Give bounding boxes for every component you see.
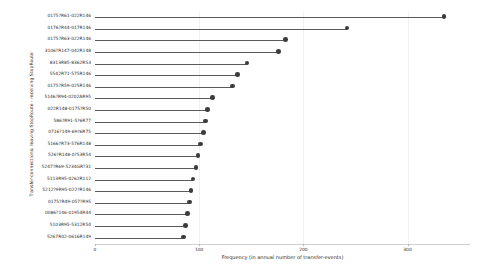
y-axis-tick-label: 5113R95-0262R112	[47, 176, 91, 181]
lollipop-stem	[95, 238, 184, 239]
y-axis-tick-label: 0175?R49-057?R95	[48, 199, 91, 204]
x-axis-title: Frequency (in annual number of transfer-…	[95, 254, 470, 260]
lollipop-row	[95, 140, 470, 152]
lollipop-row	[95, 128, 470, 140]
lollipop-stem	[95, 133, 203, 134]
lollipop-row	[95, 209, 470, 221]
lollipop-row	[95, 35, 470, 47]
lollipop-row	[95, 151, 470, 163]
y-axis-tick-labels: 0175?R61-022R1460176?R44-017R1460175?R63…	[0, 12, 91, 244]
lollipop-row	[95, 198, 470, 210]
y-axis-tick-label: 5146?R94-0202AR95	[44, 94, 91, 99]
x-axis-line	[95, 244, 470, 245]
y-axis-tick-label: 8313R85-8362R53	[50, 60, 91, 65]
y-axis-tick-label: 0175?R61-022R146	[47, 13, 91, 18]
lollipop-stem	[95, 29, 347, 30]
lollipop-marker	[203, 119, 208, 124]
x-axis-tick-label: 300	[403, 247, 411, 252]
lollipop-marker	[210, 95, 215, 100]
lollipop-row	[95, 221, 470, 233]
lollipop-row	[95, 82, 470, 94]
y-axis-tick-label: 0175?R59-025R146	[47, 83, 91, 88]
lollipop-marker	[189, 188, 194, 193]
x-axis-tick-label: 200	[299, 247, 307, 252]
lollipop-row	[95, 163, 470, 175]
lollipop-stem	[95, 214, 188, 215]
y-axis-tick-label: 0176?R44-017R146	[47, 25, 91, 30]
lollipop-stem	[95, 191, 191, 192]
lollipop-stem	[95, 156, 198, 157]
x-axis-tick-mark	[303, 244, 304, 246]
lollipop-marker	[194, 165, 199, 170]
lollipop-marker	[345, 26, 350, 31]
lollipop-stem	[95, 203, 190, 204]
lollipop-marker	[191, 177, 196, 182]
lollipop-marker	[442, 14, 447, 19]
y-axis-tick-label: 586?R91-5?6R77	[54, 118, 92, 123]
lollipop-marker	[185, 211, 190, 216]
lollipop-stem	[95, 145, 200, 146]
lollipop-stem	[95, 122, 205, 123]
lollipop-row	[95, 232, 470, 244]
x-axis-tick-mark	[408, 244, 409, 246]
x-axis-tick-mark	[95, 244, 96, 246]
x-axis-tick-mark	[199, 244, 200, 246]
lollipop-stem	[95, 87, 233, 88]
y-axis-tick-label: 5166?R73-576R148	[47, 141, 91, 146]
lollipop-stem	[95, 64, 247, 65]
lollipop-row	[95, 58, 470, 70]
lollipop-marker	[201, 130, 206, 135]
lollipop-stem	[95, 168, 196, 169]
lollipop-marker	[235, 72, 240, 77]
y-axis-tick-label: 0086?146-01954R44	[45, 210, 91, 215]
y-axis-tick-label: 5267R02-0616R149	[47, 234, 91, 239]
lollipop-stem	[95, 180, 193, 181]
lollipop-stem	[95, 17, 444, 18]
lollipop-row	[95, 105, 470, 117]
lollipop-marker	[198, 142, 203, 147]
y-axis-tick-label: 022R148-0175?R50	[47, 106, 91, 111]
lollipop-marker	[283, 37, 288, 42]
lollipop-marker	[187, 200, 192, 205]
lollipop-stem	[95, 75, 238, 76]
lollipop-chart-figure: Transfer-connections: leaving StopRoute …	[0, 0, 479, 277]
y-axis-tick-label: 3106?R147-042R148	[45, 48, 91, 53]
lollipop-marker	[205, 107, 210, 112]
lollipop-row	[95, 93, 470, 105]
lollipop-marker	[230, 84, 235, 89]
lollipop-row	[95, 174, 470, 186]
y-axis-tick-label: 5103R95-5312R54	[50, 222, 91, 227]
y-axis-tick-label: 0175?R63-022R146	[47, 36, 91, 41]
lollipop-marker	[196, 153, 201, 158]
y-axis-tick-label: 5212?9R95-022?R146	[42, 187, 91, 192]
lollipop-row	[95, 12, 470, 24]
y-axis-tick-label: 526?R148-0?53R54	[48, 152, 91, 157]
y-axis-tick-label: 0716?149-69?6R75	[48, 129, 91, 134]
x-axis-tick-label: 0	[94, 247, 97, 252]
plot-area	[95, 12, 470, 244]
y-axis-tick-label: 5247?R69-5234GR?31	[42, 164, 91, 169]
lollipop-row	[95, 47, 470, 59]
lollipop-stem	[95, 40, 286, 41]
lollipop-row	[95, 24, 470, 36]
x-axis-tick-label: 100	[195, 247, 203, 252]
lollipop-row	[95, 70, 470, 82]
lollipop-stem	[95, 98, 213, 99]
lollipop-marker	[183, 223, 188, 228]
lollipop-stem	[95, 110, 208, 111]
lollipop-marker	[181, 235, 186, 240]
lollipop-stem	[95, 226, 186, 227]
lollipop-row	[95, 116, 470, 128]
lollipop-marker	[276, 49, 281, 54]
lollipop-row	[95, 186, 470, 198]
lollipop-marker	[245, 61, 250, 66]
y-axis-tick-label: 5542R71-575R146	[50, 71, 91, 76]
lollipop-stem	[95, 52, 278, 53]
